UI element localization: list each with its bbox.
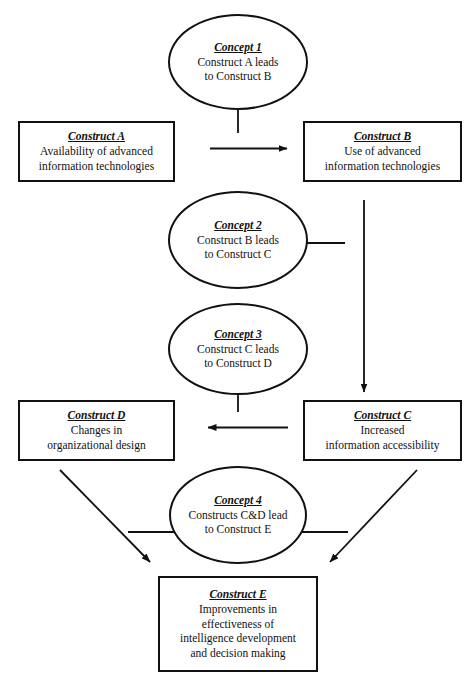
node-concept3-line-1: Construct C leads [197,342,279,357]
node-concept4-line-1: Constructs C&D lead [188,508,287,523]
node-construct-c[interactable]: Construct C Increased information access… [303,400,462,461]
node-concept4-title: Concept 4 [214,493,262,508]
node-construct-b[interactable]: Construct B Use of advanced information … [303,121,462,182]
node-concept3-line-2: to Construct D [204,356,272,371]
node-concept4[interactable]: Concept 4 Constructs C&D lead to Constru… [169,466,307,564]
node-construct-e-title: Construct E [209,587,266,602]
node-construct-b-line-2: information technologies [325,159,440,174]
node-construct-e-line-1: Improvements in [199,602,277,617]
node-construct-a-line-1: Availability of advanced [40,144,153,159]
node-construct-c-title: Construct C [354,408,411,423]
node-construct-e[interactable]: Construct E Improvements in effectivenes… [158,576,318,672]
node-concept2-line-2: to Construct C [204,247,271,262]
node-construct-c-line-1: Increased [360,423,404,438]
node-construct-e-line-2: effectiveness of [202,617,274,632]
node-construct-c-line-2: information accessibility [325,438,439,453]
node-construct-d[interactable]: Construct D Changes in organizational de… [18,400,175,461]
node-construct-b-line-1: Use of advanced [344,144,421,159]
node-concept2-line-1: Construct B leads [197,233,279,248]
node-construct-b-title: Construct B [354,129,411,144]
node-construct-d-line-1: Changes in [71,423,122,438]
node-concept3[interactable]: Concept 3 Construct C leads to Construct… [168,303,308,395]
node-concept1-line-1: Construct A leads [197,55,278,70]
node-construct-e-line-3: intelligence development [180,631,296,646]
diagram-canvas: Concept 1 Construct A leads to Construct… [0,0,475,690]
node-construct-a-line-2: information technologies [39,159,154,174]
node-concept1-title: Concept 1 [214,40,262,55]
node-concept4-line-2: to Construct E [205,522,271,537]
node-concept1-line-2: to Construct B [204,69,271,84]
node-concept2[interactable]: Concept 2 Construct B leads to Construct… [168,191,308,289]
connector-c-to-e [330,470,417,562]
node-construct-d-line-2: organizational design [47,438,145,453]
node-construct-a[interactable]: Construct A Availability of advanced inf… [18,121,175,182]
node-concept1[interactable]: Concept 1 Construct A leads to Construct… [168,14,308,110]
node-concept3-title: Concept 3 [214,327,262,342]
node-concept2-title: Concept 2 [214,218,262,233]
node-construct-d-title: Construct D [68,408,126,423]
connector-d-to-e [60,470,150,562]
node-construct-e-line-4: and decision making [190,646,285,661]
node-construct-a-title: Construct A [68,129,125,144]
